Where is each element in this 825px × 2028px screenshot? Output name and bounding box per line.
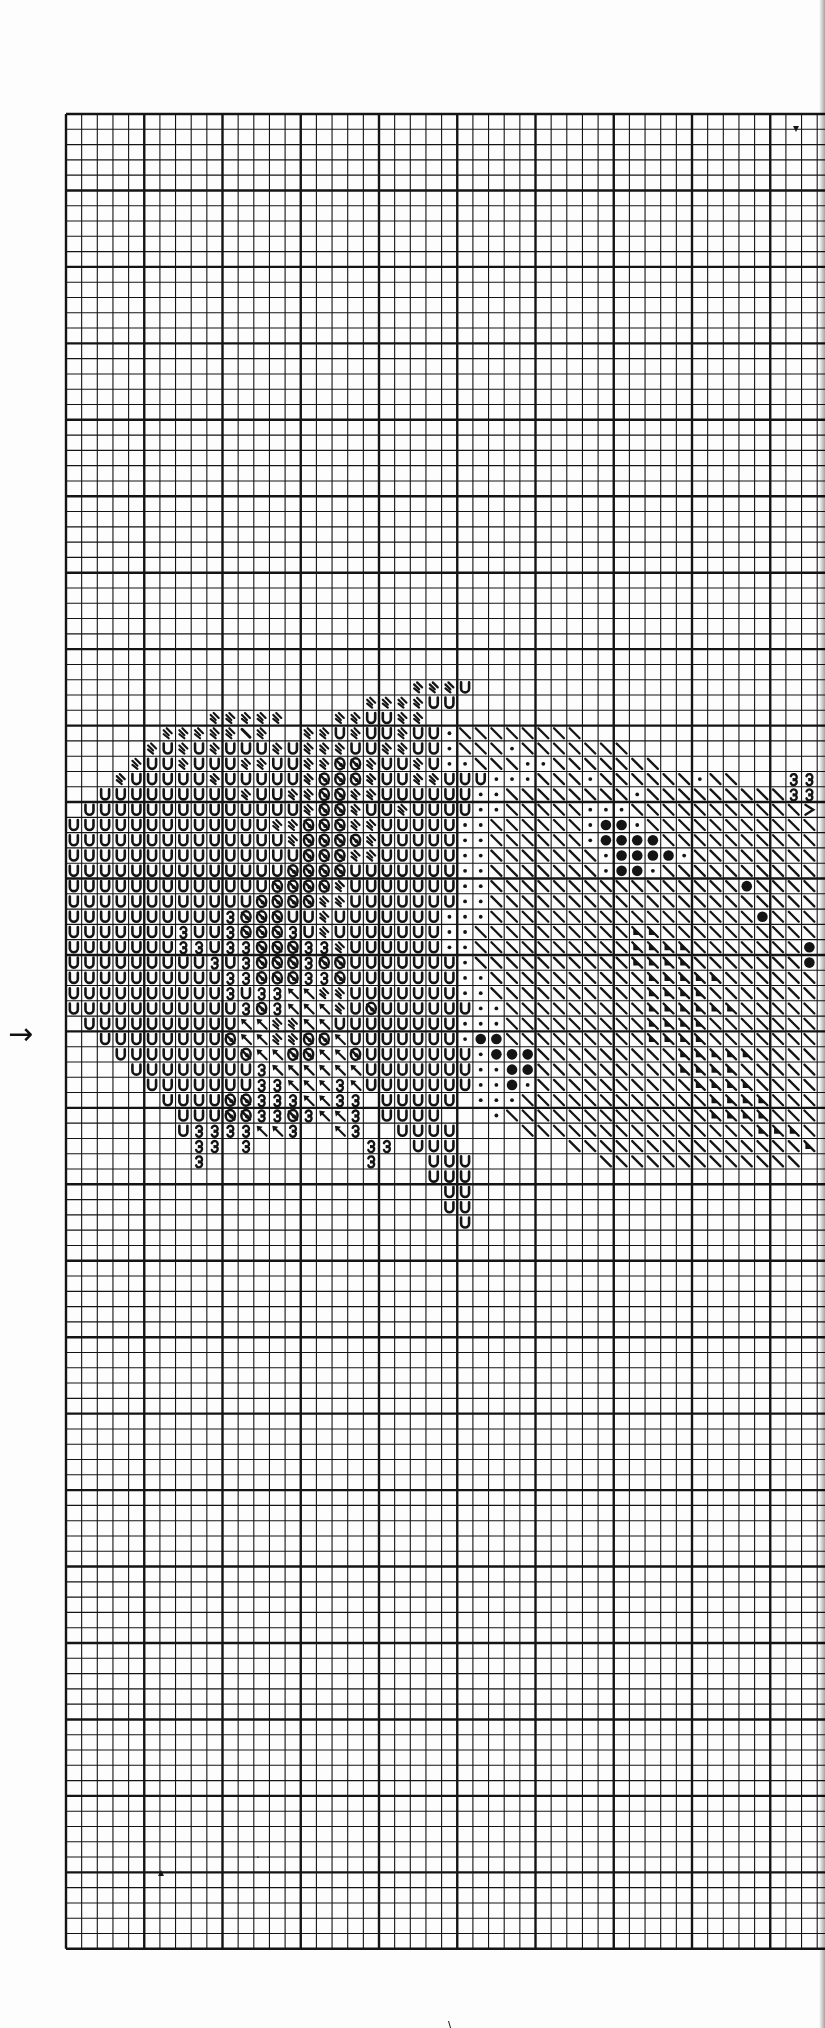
page-edge-shadow: [819, 0, 825, 2028]
cross-stitch-chart-grid: [0, 0, 825, 2028]
center-row-arrow-icon: →: [8, 1019, 33, 1049]
